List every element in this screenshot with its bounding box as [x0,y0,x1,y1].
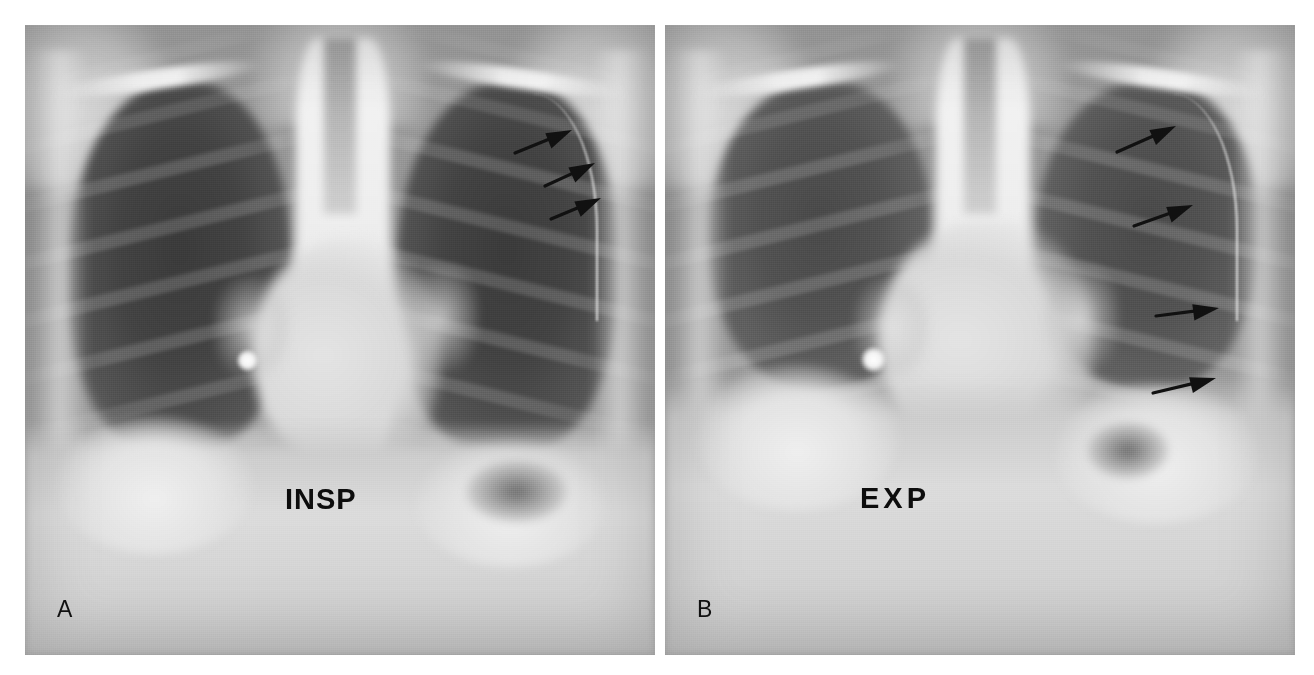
figure-root: INSP EXP A B [0,0,1314,675]
calcified-nodule [860,346,886,372]
trachea [324,38,356,214]
hilum-right [403,264,479,371]
radiograph-panel-a [25,25,655,655]
panel-letter-b: B [697,596,712,623]
hemidiaphragm-left [57,416,252,555]
xray-image-a [25,25,655,655]
radiograph-panel-b [665,25,1295,655]
calcified-nodule [236,349,259,372]
panel-letter-a: A [57,596,72,623]
trachea [964,38,996,214]
xray-image-b [665,25,1295,655]
hilum-right [1043,264,1119,371]
phase-label-inspiration: INSP [285,483,357,516]
phase-label-expiration: EXP [860,482,930,515]
gastric-bubble [466,460,567,523]
gastric-bubble [1087,422,1169,479]
